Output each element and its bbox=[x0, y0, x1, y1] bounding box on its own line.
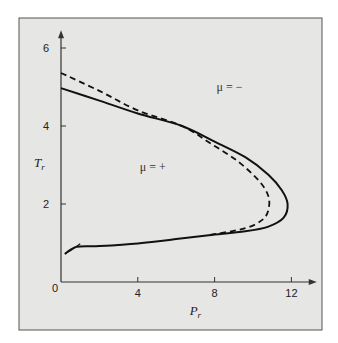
origin-label: 0 bbox=[52, 282, 58, 294]
x-tick-label: 8 bbox=[212, 287, 218, 299]
chart-panel bbox=[19, 18, 322, 330]
y-tick-label: 6 bbox=[43, 42, 49, 54]
y-tick-label: 4 bbox=[43, 120, 49, 132]
region-label-positive: μ = + bbox=[140, 160, 166, 174]
y-tick-label: 2 bbox=[43, 198, 49, 210]
x-tick-label: 4 bbox=[135, 287, 141, 299]
chart: 48122460PrTrμ = +μ = − bbox=[0, 0, 338, 343]
region-label-negative: μ = − bbox=[217, 80, 243, 94]
x-tick-label: 12 bbox=[285, 287, 297, 299]
